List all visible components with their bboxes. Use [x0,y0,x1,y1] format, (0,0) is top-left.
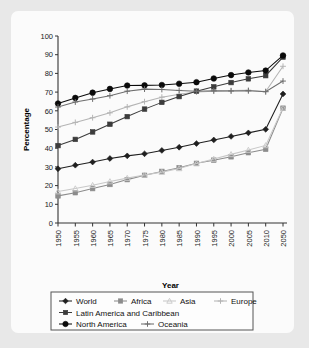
point-marker [124,153,130,159]
legend-label: North America [76,320,127,329]
point-marker [118,299,122,303]
y-tick-label: 80 [45,69,53,78]
point-marker [73,137,78,142]
point-marker [90,186,95,191]
point-marker [108,182,113,187]
y-tick-label: 50 [45,125,53,134]
point-marker [159,87,165,93]
point-marker [229,80,234,85]
legend-label: Latin America and Caribbean [76,309,179,318]
point-marker [280,53,286,59]
x-tick-label: 1970 [123,230,132,247]
legend-label: World [76,297,97,306]
point-marker [280,78,286,84]
series-world [55,91,286,172]
point-marker [124,83,130,89]
y-tick-label: 100 [40,32,53,41]
point-marker [90,90,96,96]
point-marker [72,119,78,125]
point-marker [159,148,165,154]
legend-item-latin-america-and-caribbean[interactable]: Latin America and Caribbean [59,309,179,318]
point-marker [107,156,113,162]
legend-label: Europe [231,297,257,306]
point-marker [90,96,96,102]
point-marker [142,151,148,157]
point-marker [90,130,95,135]
point-marker [246,70,252,76]
point-marker [228,88,234,94]
point-marker [108,122,113,127]
point-marker [280,63,286,69]
line-chart: 0102030405060708090100195019551960196519… [11,11,294,333]
point-marker [176,144,182,150]
chart-panel: 0102030405060708090100195019551960196519… [11,11,294,333]
x-tick-label: 1950 [54,230,63,247]
y-tick-label: 40 [45,144,53,153]
point-marker [177,94,182,99]
x-tick-label: 1960 [89,230,98,247]
point-marker [124,88,130,94]
point-marker [246,77,251,82]
point-marker [245,88,251,94]
x-axis-labels: 1950195519601965197019751980198519901995… [54,223,288,247]
point-marker [194,79,200,85]
point-marker [107,110,113,116]
x-axis-title: Year [162,281,179,290]
series-latin-america-and-caribbean [56,55,286,148]
point-marker [90,159,96,165]
point-marker [245,130,251,136]
point-marker [72,162,78,168]
y-tick-label: 0 [49,219,53,228]
point-marker [263,126,269,132]
y-tick-label: 70 [45,88,53,97]
point-marker [159,94,165,100]
point-marker [176,88,182,94]
point-marker [228,72,234,78]
point-marker [90,115,96,121]
x-tick-label: 1985 [175,230,184,247]
x-tick-label: 1995 [210,230,219,247]
point-marker [176,81,182,87]
point-marker [56,143,61,148]
point-marker [142,99,148,105]
y-tick-label: 60 [45,107,53,116]
point-marker [124,104,130,110]
x-tick-label: 1975 [141,230,150,247]
x-tick-label: 1990 [193,230,202,247]
point-marker [263,73,268,78]
y-tick-label: 90 [45,50,53,59]
point-marker [211,137,217,143]
series-north-america [55,53,286,107]
y-tick-label: 20 [45,181,53,190]
x-tick-label: 2010 [262,230,271,247]
point-marker [263,68,269,74]
legend-label: Africa [131,297,152,306]
legend-label: Asia [180,297,196,306]
point-marker [107,93,113,99]
y-tick-label: 30 [45,163,53,172]
axes: 0102030405060708090100 [40,32,287,228]
x-tick-label: 1980 [158,230,167,247]
point-marker [125,114,130,119]
point-marker [211,76,217,82]
legend: WorldAfricaAsiaEuropeLatin America and C… [51,292,257,330]
x-tick-label: 1965 [106,230,115,247]
y-axis-title: Percentage [22,107,31,151]
y-tick-label: 10 [45,200,53,209]
x-tick-label: 1955 [72,230,81,247]
x-tick-label: 2050 [279,230,288,247]
point-marker [63,321,68,326]
x-tick-label: 2005 [245,230,254,247]
point-marker [142,107,147,112]
point-marker [280,91,286,97]
chart-svg: 0102030405060708090100195019551960196519… [11,11,294,333]
point-marker [63,310,67,314]
legend-label: Oceania [158,320,188,329]
x-tick-label: 2000 [227,230,236,247]
point-marker [263,89,269,95]
point-marker [228,134,234,140]
point-marker [160,100,165,105]
point-marker [194,141,200,147]
point-marker [107,86,113,92]
